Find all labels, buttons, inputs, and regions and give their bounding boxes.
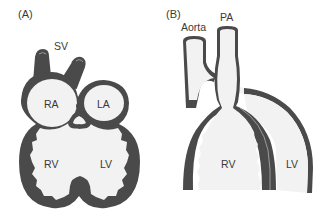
label-lv-a: LV bbox=[100, 158, 112, 170]
heart-anatomy-figure: (A) SV RA LA RV LV bbox=[0, 0, 332, 224]
label-rv-b: RV bbox=[221, 158, 235, 170]
panel-b-label: (B) bbox=[166, 8, 181, 20]
label-rv-a: RV bbox=[44, 158, 58, 170]
label-sv: SV bbox=[54, 40, 68, 52]
panel-a: (A) SV RA LA RV LV bbox=[18, 8, 140, 208]
pa-lumen bbox=[217, 29, 237, 108]
figure-canvas: (A) SV RA LA RV LV bbox=[0, 0, 332, 224]
panel-a-label: (A) bbox=[18, 8, 33, 20]
label-pa: PA bbox=[220, 11, 233, 23]
label-aorta: Aorta bbox=[181, 21, 206, 33]
panel-b: (B) Aorta PA RV LV bbox=[166, 8, 313, 193]
label-lv-b: LV bbox=[286, 158, 298, 170]
septum-dot bbox=[76, 103, 82, 109]
label-ra: RA bbox=[44, 98, 59, 110]
label-la: LA bbox=[97, 98, 110, 110]
